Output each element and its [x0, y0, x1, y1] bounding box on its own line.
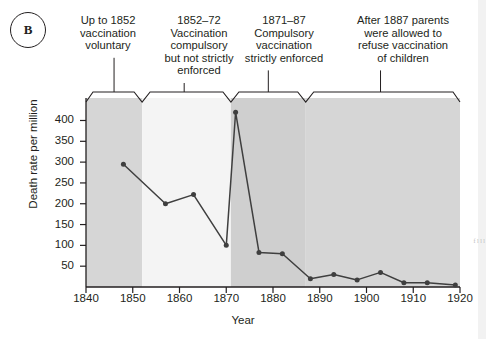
y-axis-tick-label: 50 — [34, 259, 74, 271]
data-point — [121, 162, 126, 167]
data-point — [191, 192, 196, 197]
chart-band — [86, 98, 142, 287]
data-point — [308, 276, 313, 281]
y-axis-tick-label: 300 — [34, 155, 74, 167]
x-axis-tick-label: 1910 — [391, 292, 435, 304]
data-point — [401, 280, 406, 285]
data-point — [280, 251, 285, 256]
x-axis-tick-label: 1850 — [111, 292, 155, 304]
chart-band — [142, 98, 231, 287]
x-axis-tick-label: 1890 — [298, 292, 342, 304]
data-point — [163, 201, 168, 206]
data-point — [453, 282, 458, 287]
y-axis-tick-label: 350 — [34, 134, 74, 146]
page-edge-artifact-text: f l l l — [474, 238, 486, 245]
chart-band — [306, 98, 460, 287]
figure-panel-b: B Up to 1852 vaccination voluntary1852–7… — [0, 0, 486, 339]
x-axis-tick-label: 1860 — [158, 292, 202, 304]
y-axis-tick-label: 250 — [34, 176, 74, 188]
x-axis-tick-label: 1900 — [345, 292, 389, 304]
data-point — [378, 270, 383, 275]
data-point — [224, 243, 229, 248]
data-point — [425, 280, 430, 285]
x-axis-tick-label: 1870 — [204, 292, 248, 304]
y-axis-tick-label: 150 — [34, 218, 74, 230]
x-axis-tick-label: 1920 — [438, 292, 482, 304]
chart-band — [231, 98, 306, 287]
x-axis-tick-label: 1880 — [251, 292, 295, 304]
data-point — [355, 277, 360, 282]
y-axis-tick-label: 400 — [34, 113, 74, 125]
data-point — [233, 110, 238, 115]
page-edge-strip — [478, 0, 486, 339]
chart-canvas — [0, 0, 486, 339]
data-point — [331, 272, 336, 277]
y-axis-tick-label: 100 — [34, 238, 74, 250]
x-axis-title: Year — [0, 314, 486, 326]
x-axis-tick-label: 1840 — [64, 292, 108, 304]
y-axis-title: Death rate per million — [27, 69, 39, 239]
data-point — [256, 250, 261, 255]
y-axis-tick-label: 200 — [34, 197, 74, 209]
